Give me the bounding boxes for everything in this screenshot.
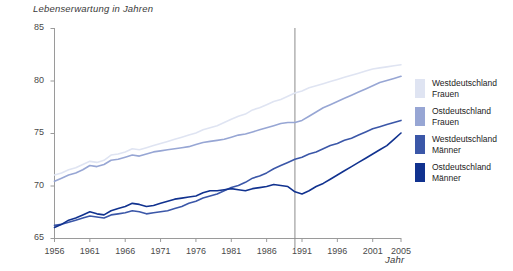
- y-tick-label-65: 65: [22, 232, 44, 242]
- legend-label-1: Ostdeutschland Frauen: [432, 106, 491, 127]
- legend-label-0: Westdeutschland Frauen: [432, 78, 497, 99]
- legend-label-2: Westdeutschland Männer: [432, 134, 497, 155]
- chart-legend: Westdeutschland FrauenOstdeutschland Fra…: [415, 78, 511, 190]
- life-expectancy-chart: Lebenserwartung in Jahren Jahr 657075808…: [0, 0, 513, 271]
- series-line: [55, 120, 402, 225]
- legend-item-0[interactable]: Westdeutschland Frauen: [415, 78, 511, 99]
- x-tick-label-1991: 1991: [282, 246, 322, 256]
- series-line: [55, 133, 402, 228]
- legend-swatch-1: [415, 107, 425, 126]
- legend-item-3[interactable]: Ostdeutschland Männer: [415, 162, 511, 183]
- x-tick-label-1966: 1966: [105, 246, 145, 256]
- x-tick-label-1971: 1971: [141, 246, 181, 256]
- x-tick-label-1986: 1986: [247, 246, 287, 256]
- x-tick-label-1981: 1981: [211, 246, 251, 256]
- x-tick-label-1996: 1996: [317, 246, 357, 256]
- legend-swatch-3: [415, 163, 425, 182]
- y-tick-label-75: 75: [22, 127, 44, 137]
- axes: [51, 28, 402, 242]
- data-series-group: [55, 65, 402, 228]
- y-axis-ticks: [51, 29, 55, 239]
- y-tick-label-85: 85: [22, 22, 44, 32]
- series-line: [55, 76, 402, 181]
- series-line: [55, 65, 402, 175]
- x-tick-label-2005: 2005: [381, 246, 421, 256]
- legend-swatch-0: [415, 79, 425, 98]
- y-tick-label-70: 70: [22, 180, 44, 190]
- y-tick-label-80: 80: [22, 75, 44, 85]
- legend-item-1[interactable]: Ostdeutschland Frauen: [415, 106, 511, 127]
- legend-label-3: Ostdeutschland Männer: [432, 162, 491, 183]
- x-tick-label-1976: 1976: [176, 246, 216, 256]
- legend-swatch-2: [415, 135, 425, 154]
- x-tick-label-1956: 1956: [35, 246, 75, 256]
- x-tick-label-1961: 1961: [70, 246, 110, 256]
- legend-item-2[interactable]: Westdeutschland Männer: [415, 134, 511, 155]
